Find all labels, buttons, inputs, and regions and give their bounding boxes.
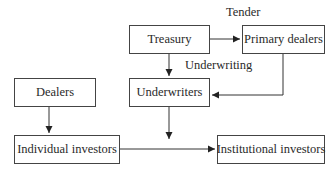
- node-label: Dealers: [36, 85, 74, 100]
- node-treasury: Treasury: [129, 25, 210, 54]
- node-primary-dealers: Primary dealers: [242, 25, 325, 54]
- node-label: Treasury: [148, 32, 192, 47]
- node-dealers: Dealers: [14, 78, 96, 107]
- edge-label-tender: Tender: [226, 5, 261, 20]
- node-label: Primary dealers: [244, 32, 323, 47]
- edge-label-underwriting: Underwriting: [185, 58, 252, 73]
- node-label: Institutional investors: [217, 142, 326, 157]
- node-label: Individual investors: [17, 142, 117, 157]
- node-individual-investors: Individual investors: [14, 135, 120, 164]
- node-institutional-investors: Institutional investors: [217, 135, 325, 164]
- node-underwriters: Underwriters: [129, 78, 210, 107]
- node-label: Underwriters: [137, 85, 203, 100]
